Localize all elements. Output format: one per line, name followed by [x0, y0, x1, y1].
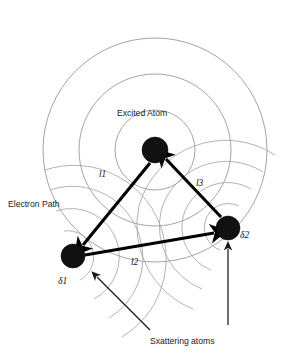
path-label-l3: l3: [196, 178, 204, 188]
canvas-background: [0, 0, 285, 356]
excited-atom-label: Excited Atom: [117, 108, 167, 118]
path-label-l1: l1: [99, 169, 106, 179]
electron-path-label: Electron Path: [8, 199, 60, 209]
excited-atom: [142, 137, 168, 163]
scattering-atoms-label: Sxattering atoms: [150, 336, 214, 346]
delta1-label: δ1: [58, 275, 67, 286]
scattering-atom-delta2: [216, 216, 240, 240]
scattering-atom-delta1: [61, 244, 85, 268]
scattering-diagram: Excited Atom Electron Path Sxattering at…: [0, 0, 285, 356]
path-label-l2: l2: [131, 257, 139, 267]
delta2-label: δ2: [240, 229, 249, 240]
